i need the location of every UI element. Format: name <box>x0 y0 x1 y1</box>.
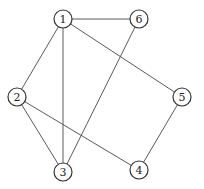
node-label: 2 <box>14 91 21 104</box>
node-label: 1 <box>60 13 67 26</box>
node-label: 4 <box>136 164 143 177</box>
edge-2-3 <box>17 97 63 172</box>
node-4: 4 <box>130 161 148 179</box>
node-1: 1 <box>54 10 72 28</box>
node-5: 5 <box>173 88 191 106</box>
node-label: 3 <box>60 166 67 179</box>
node-3: 3 <box>54 163 72 181</box>
node-2: 2 <box>8 88 26 106</box>
edge-1-2 <box>17 19 63 97</box>
node-6: 6 <box>130 10 148 28</box>
edge-3-6 <box>63 19 139 172</box>
edge-2-4 <box>17 97 139 170</box>
node-label: 6 <box>136 13 143 26</box>
node-label: 5 <box>179 91 186 104</box>
edge-1-5 <box>63 19 182 97</box>
edges-layer <box>17 19 182 172</box>
nodes-layer: 123456 <box>8 10 191 181</box>
graph-diagram: 123456 <box>0 0 204 189</box>
edge-4-5 <box>139 97 182 170</box>
